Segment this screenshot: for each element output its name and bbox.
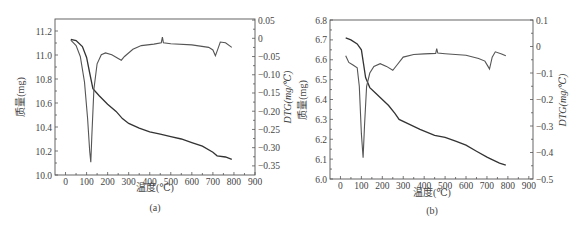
x-tick-label: 0 xyxy=(63,177,68,187)
chart-panel-a: 0100200300400500600700800900 10.010.210.… xyxy=(15,16,294,214)
right-y-tick-label: −0.2 xyxy=(536,95,553,105)
right-y-tick-label: −0.1 xyxy=(536,69,553,79)
left-y-tick-label: 10.6 xyxy=(35,99,52,109)
right-y-tick-label: 0 xyxy=(536,42,541,52)
dtg-curve xyxy=(71,37,232,162)
left-y-axis-tick-labels: 6.06.16.26.36.46.56.66.76.8 xyxy=(315,16,327,185)
left-y-tick-label: 10.8 xyxy=(35,75,52,85)
x-tick-label: 600 xyxy=(459,181,474,191)
plot-area-frame xyxy=(330,20,533,179)
right-y-axis-title: DTG(mg/℃) xyxy=(282,70,294,125)
left-y-axis-title: 质量(mg) xyxy=(297,80,309,119)
right-y-tick-label: −0.25 xyxy=(258,125,280,135)
x-tick-label: 100 xyxy=(79,177,94,187)
left-y-tick-label: 10.0 xyxy=(35,171,52,181)
right-y-axis-title: DTG(mg/℃) xyxy=(557,73,569,128)
right-y-tick-label: −0.10 xyxy=(258,70,280,80)
left-y-tick-label: 10.4 xyxy=(35,123,52,133)
tg-mass-curve xyxy=(71,39,232,159)
left-y-tick-label: 11.0 xyxy=(36,51,53,61)
axis-ticks xyxy=(330,20,533,179)
panel-label-b: (b) xyxy=(426,205,438,217)
x-tick-label: 600 xyxy=(185,177,200,187)
tga-figure: 0100200300400500600700800900 10.010.210.… xyxy=(0,0,586,229)
x-tick-label: 300 xyxy=(122,177,137,187)
left-y-tick-label: 6.5 xyxy=(315,75,327,85)
right-y-tick-label: 0 xyxy=(258,34,263,44)
right-y-tick-label: −0.3 xyxy=(536,122,553,132)
right-y-tick-label: −0.4 xyxy=(536,148,553,158)
left-y-tick-label: 6.4 xyxy=(315,95,327,105)
left-y-axis-title: 质量(mg) xyxy=(15,77,27,116)
x-tick-label: 800 xyxy=(501,181,516,191)
right-y-axis-tick-labels: 0.10−0.1−0.2−0.3−0.4−0.5 xyxy=(536,16,553,185)
left-y-tick-label: 6.6 xyxy=(315,55,327,65)
left-y-tick-label: 6.0 xyxy=(315,175,327,185)
left-y-tick-label: 6.1 xyxy=(315,155,327,165)
right-y-tick-label: 0.1 xyxy=(536,16,548,26)
axis-ticks xyxy=(55,20,255,175)
x-tick-label: 200 xyxy=(375,181,390,191)
right-y-tick-label: −0.35 xyxy=(258,161,280,171)
left-y-tick-label: 6.3 xyxy=(315,115,327,125)
left-y-tick-label: 6.2 xyxy=(315,135,327,145)
right-y-axis-tick-labels: 0.050−0.05−0.10−0.15−0.20−0.25−0.30−0.35 xyxy=(258,16,280,172)
x-tick-label: 800 xyxy=(227,177,242,187)
x-tick-label: 900 xyxy=(522,181,537,191)
x-tick-label: 0 xyxy=(338,181,343,191)
dtg-curve xyxy=(346,49,506,158)
left-y-tick-label: 10.2 xyxy=(35,147,52,157)
left-y-tick-label: 6.8 xyxy=(315,16,327,26)
left-y-axis-tick-labels: 10.010.210.410.610.811.011.2 xyxy=(35,27,52,181)
left-y-tick-label: 11.2 xyxy=(36,27,53,37)
x-tick-label: 700 xyxy=(480,181,495,191)
x-tick-label: 200 xyxy=(101,177,116,187)
panel-label-a: (a) xyxy=(149,202,160,214)
right-y-tick-label: −0.05 xyxy=(258,52,280,62)
right-y-tick-label: −0.15 xyxy=(258,88,280,98)
chart-panel-b: 0100200300400500600700800900 6.06.16.26.… xyxy=(297,16,569,218)
right-y-tick-label: −0.30 xyxy=(258,143,280,153)
right-y-tick-label: −0.5 xyxy=(536,175,553,185)
x-tick-label: 300 xyxy=(396,181,411,191)
x-tick-label: 100 xyxy=(354,181,369,191)
x-axis-title: 温度(℃) xyxy=(413,186,451,199)
x-axis-title: 温度(℃) xyxy=(136,181,174,194)
left-y-tick-label: 6.7 xyxy=(315,35,327,45)
right-y-tick-label: −0.20 xyxy=(258,107,280,117)
x-tick-label: 700 xyxy=(206,177,221,187)
x-tick-label: 900 xyxy=(248,177,263,187)
tg-mass-curve xyxy=(346,38,506,165)
right-y-tick-label: 0.05 xyxy=(258,16,275,26)
